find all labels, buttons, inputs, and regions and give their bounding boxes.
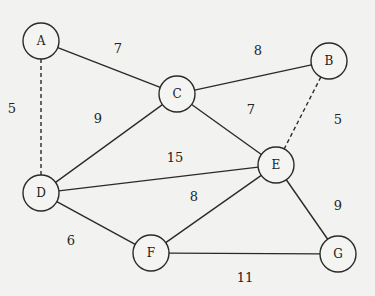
weighted-graph-diagram: 7589751568911 ABCDEFG bbox=[0, 0, 375, 296]
edge-F-G bbox=[169, 253, 320, 254]
edge-A-C bbox=[58, 48, 160, 88]
node-label: D bbox=[36, 186, 46, 200]
edge-weight-D-F: 6 bbox=[67, 233, 75, 248]
edge-B-E bbox=[284, 77, 321, 149]
node-C: C bbox=[159, 76, 195, 112]
node-label: B bbox=[325, 54, 334, 68]
edge-D-E bbox=[59, 167, 258, 191]
node-label: F bbox=[147, 246, 155, 260]
edge-weight-C-D: 9 bbox=[94, 111, 102, 126]
node-label: C bbox=[172, 87, 181, 101]
node-label: E bbox=[272, 158, 281, 172]
edge-weight-C-E: 7 bbox=[247, 102, 255, 117]
edge-weight-A-D: 5 bbox=[8, 101, 16, 116]
node-G: G bbox=[320, 236, 356, 272]
node-F: F bbox=[133, 235, 169, 271]
node-label: G bbox=[333, 247, 343, 261]
edge-E-G bbox=[286, 180, 327, 239]
edge-C-B bbox=[195, 65, 312, 90]
edge-F-E bbox=[166, 175, 262, 242]
edge-weight-F-E: 8 bbox=[190, 189, 198, 204]
node-A: A bbox=[23, 23, 59, 59]
node-E: E bbox=[258, 147, 294, 183]
edge-weight-A-C: 7 bbox=[114, 41, 122, 56]
edge-C-D bbox=[56, 105, 163, 183]
edge-weight-D-E: 15 bbox=[167, 150, 184, 165]
node-B: B bbox=[311, 43, 347, 79]
node-D: D bbox=[23, 175, 59, 211]
edge-weight-B-E: 5 bbox=[334, 112, 342, 127]
edge-weight-C-B: 8 bbox=[254, 43, 262, 58]
edge-weight-E-G: 9 bbox=[334, 198, 342, 213]
node-label: A bbox=[36, 34, 46, 48]
edge-weight-F-G: 11 bbox=[237, 270, 254, 285]
